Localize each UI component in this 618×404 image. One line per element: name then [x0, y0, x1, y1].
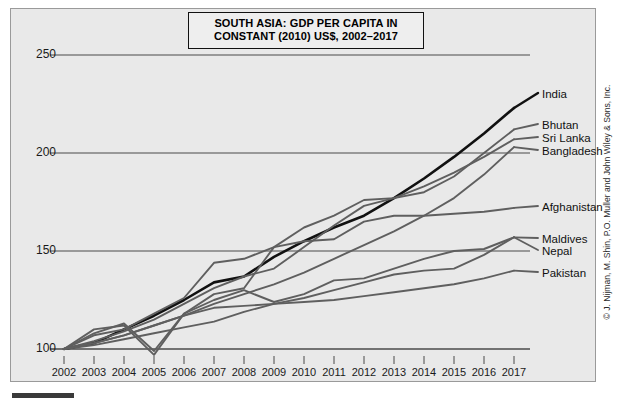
x-tick-label-2016: 2016: [467, 366, 501, 378]
gridlines: [50, 55, 530, 349]
leader-pakistan: [514, 271, 538, 272]
series-label-afghanistan: Afghanistan: [542, 201, 603, 213]
leader-nepal: [514, 237, 538, 250]
x-tick-label-2012: 2012: [347, 366, 381, 378]
label-leader-lines: [514, 93, 538, 272]
y-tick-label-100: 100: [22, 341, 56, 355]
chart-title-line-2: CONSTANT (2010) US$, 2002–2017: [193, 30, 419, 43]
series-label-maldives: Maldives: [542, 233, 587, 245]
x-tick-label-2009: 2009: [257, 366, 291, 378]
leader-bangladesh: [514, 147, 538, 150]
leader-india: [514, 93, 538, 108]
x-tick-label-2006: 2006: [167, 366, 201, 378]
x-tick-label-2004: 2004: [107, 366, 141, 378]
leader-sri-lanka: [514, 137, 538, 139]
x-axis: [64, 356, 514, 364]
series-label-bangladesh: Bangladesh: [542, 145, 603, 157]
leader-afghanistan: [514, 206, 538, 208]
plot-area: [0, 0, 618, 404]
x-tick-label-2013: 2013: [377, 366, 411, 378]
x-tick-label-2017: 2017: [497, 366, 531, 378]
x-tick-label-2003: 2003: [77, 366, 111, 378]
x-tick-label-2008: 2008: [227, 366, 261, 378]
x-tick-label-2015: 2015: [437, 366, 471, 378]
credit-container: © J. Nijman, M. Shin, P.O. Muller and Jo…: [596, 0, 618, 404]
x-tick-label-2002: 2002: [47, 366, 81, 378]
x-tick-label-2014: 2014: [407, 366, 441, 378]
x-tick-label-2011: 2011: [317, 366, 351, 378]
series-label-nepal: Nepal: [542, 245, 572, 257]
copyright-credit: © J. Nijman, M. Shin, P.O. Muller and Jo…: [602, 85, 612, 320]
series-label-pakistan: Pakistan: [542, 267, 586, 279]
chart-title-box: SOUTH ASIA: GDP PER CAPITA IN CONSTANT (…: [188, 12, 424, 49]
leader-bhutan: [514, 124, 538, 129]
series-lines: [64, 108, 514, 355]
y-tick-label-250: 250: [22, 47, 56, 61]
chart-figure: 250 200 150 100 2002 2003 2004 2005 2006…: [0, 0, 618, 404]
series-label-sri-lanka: Sri Lanka: [542, 132, 591, 144]
series-label-bhutan: Bhutan: [542, 119, 578, 131]
scale-bar: [12, 393, 74, 398]
x-tick-label-2010: 2010: [287, 366, 321, 378]
chart-title-line-1: SOUTH ASIA: GDP PER CAPITA IN: [193, 17, 419, 30]
x-tick-label-2005: 2005: [137, 366, 171, 378]
y-tick-label-150: 150: [22, 243, 56, 257]
x-tick-label-2007: 2007: [197, 366, 231, 378]
leader-maldives: [514, 237, 538, 238]
series-label-india: India: [542, 88, 567, 100]
series-line-india: [64, 108, 514, 349]
y-tick-label-200: 200: [22, 145, 56, 159]
